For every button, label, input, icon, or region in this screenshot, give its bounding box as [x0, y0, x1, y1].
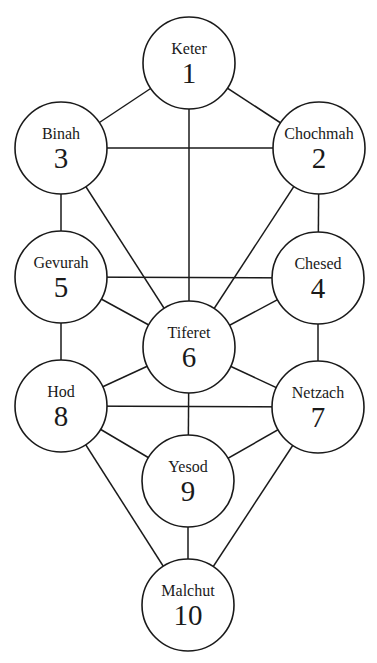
node-netzach: Netzach7	[272, 361, 364, 453]
node-number-label: 9	[181, 475, 196, 507]
node-tiferet: Tiferet6	[143, 301, 235, 393]
node-name-label: Hod	[47, 383, 75, 400]
node-name-label: Malchut	[161, 582, 215, 599]
node-chesed: Chesed4	[272, 232, 364, 324]
node-name-label: Keter	[171, 40, 207, 57]
node-number-label: 5	[54, 271, 69, 303]
node-number-label: 8	[54, 400, 69, 432]
node-name-label: Gevurah	[33, 254, 88, 271]
node-number-label: 6	[182, 341, 197, 373]
node-number-label: 3	[54, 142, 69, 174]
node-keter: Keter1	[143, 17, 235, 109]
node-number-label: 1	[182, 57, 197, 89]
node-name-label: Binah	[42, 125, 80, 142]
node-name-label: Chesed	[294, 255, 341, 272]
node-name-label: Yesod	[168, 458, 207, 475]
node-malchut: Malchut10	[142, 559, 234, 651]
node-chochmah: Chochmah2	[273, 102, 365, 194]
node-number-label: 4	[311, 272, 326, 304]
node-number-label: 10	[174, 599, 203, 631]
node-gevurah: Gevurah5	[15, 231, 107, 323]
sefirot-tree-diagram: Keter1Chochmah2Binah3Chesed4Gevurah5Tife…	[0, 0, 377, 663]
node-yesod: Yesod9	[142, 435, 234, 527]
node-number-label: 2	[312, 142, 327, 174]
node-hod: Hod8	[15, 360, 107, 452]
node-number-label: 7	[311, 401, 326, 433]
node-name-label: Tiferet	[168, 324, 212, 341]
node-name-label: Chochmah	[284, 125, 353, 142]
node-binah: Binah3	[15, 102, 107, 194]
node-name-label: Netzach	[292, 384, 344, 401]
